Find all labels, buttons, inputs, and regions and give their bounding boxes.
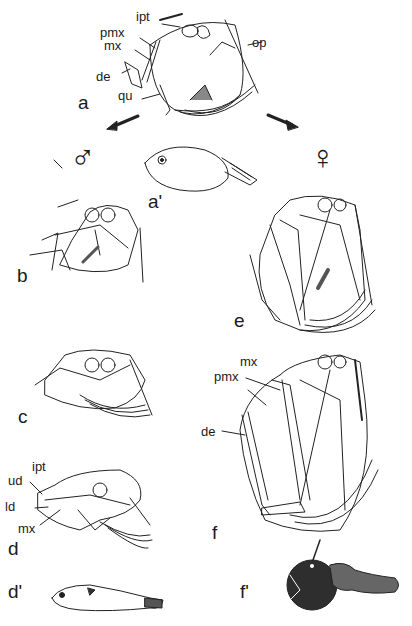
panel-label-f: f [212,523,217,542]
skull-b [30,200,143,282]
larva-f-prime [287,540,399,610]
skull-d [38,470,152,548]
skull-f [240,355,378,531]
label-de-f: de [201,425,215,438]
label-op-a: op [252,36,266,49]
panel-label-b: b [17,266,28,285]
panel-label-e: e [234,311,245,330]
skull-c [35,350,152,417]
label-ud-d: ud [8,474,22,487]
panel-label-a: a [78,93,89,112]
label-de-a: de [96,70,110,83]
arrow-left [107,116,138,130]
male-symbol: ♂ [70,140,96,174]
skull-e [250,196,375,333]
larva-a-prime [145,147,257,191]
panel-label-f-prime: f' [240,582,249,601]
label-pmx-f: pmx [214,370,239,383]
panel-label-d-prime: d' [8,582,22,601]
female-symbol: ♀ [310,140,336,174]
figure-drawings [0,0,412,626]
label-qu-a: qu [118,89,132,102]
label-ld-d: ld [5,500,15,513]
label-ipt-d: ipt [32,460,46,473]
panel-label-d: d [8,539,19,558]
label-mx-f: mx [240,355,257,368]
arrow-right [268,115,298,130]
panel-label-c: c [18,407,28,426]
label-ipt-a: ipt [136,10,150,23]
label-mx-a: mx [104,39,121,52]
larva-d-prime [52,585,163,611]
skull-a [125,14,258,116]
label-mx-d: mx [18,522,35,535]
panel-label-a-prime: a' [148,192,162,211]
